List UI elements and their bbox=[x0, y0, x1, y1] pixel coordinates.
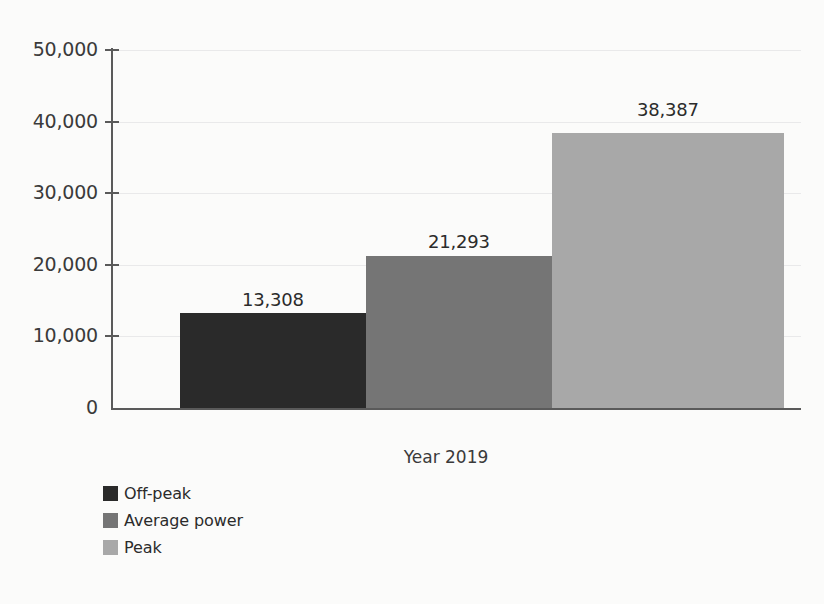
y-tick-label-0: 0 bbox=[86, 398, 98, 417]
bar-peak bbox=[552, 133, 784, 409]
legend-label-off-peak: Off-peak bbox=[124, 484, 191, 503]
legend-swatch-off-peak bbox=[103, 486, 118, 501]
bar-value-label-average-power: 21,293 bbox=[366, 233, 552, 251]
gridline-50000 bbox=[111, 50, 801, 51]
legend-swatch-peak bbox=[103, 540, 118, 555]
legend-label-peak: Peak bbox=[124, 538, 162, 557]
y-tick-label-50000: 50,000 bbox=[33, 40, 98, 59]
y-tick-label-20000: 20,000 bbox=[33, 255, 98, 274]
legend-item-off-peak: Off-peak bbox=[103, 480, 243, 507]
y-tick-mark-20000 bbox=[105, 264, 119, 266]
legend-item-average-power: Average power bbox=[103, 507, 243, 534]
y-tick-label-40000: 40,000 bbox=[33, 112, 98, 131]
y-tick-label-30000: 30,000 bbox=[33, 183, 98, 202]
x-axis-title-text: Year 2019 bbox=[404, 447, 489, 467]
bar-value-label-peak: 38,387 bbox=[552, 101, 784, 119]
y-tick-mark-40000 bbox=[105, 121, 119, 123]
x-axis-line bbox=[111, 408, 801, 410]
x-axis-title: Year 2019 bbox=[0, 447, 824, 467]
chart-legend: Off-peak Average power Peak bbox=[103, 480, 243, 561]
bar-chart: 50,000 40,000 30,000 20,000 10,000 0 13,… bbox=[0, 0, 824, 604]
y-tick-mark-50000 bbox=[105, 49, 119, 51]
legend-item-peak: Peak bbox=[103, 534, 243, 561]
legend-swatch-average-power bbox=[103, 513, 118, 528]
y-axis-line bbox=[111, 48, 113, 410]
y-tick-mark-10000 bbox=[105, 335, 119, 337]
bar-average-power bbox=[366, 256, 552, 409]
legend-label-average-power: Average power bbox=[124, 511, 243, 530]
bar-value-label-off-peak: 13,308 bbox=[180, 291, 366, 309]
bar-off-peak bbox=[180, 313, 366, 409]
gridline-40000 bbox=[111, 122, 801, 123]
y-tick-mark-30000 bbox=[105, 192, 119, 194]
y-tick-label-10000: 10,000 bbox=[33, 326, 98, 345]
